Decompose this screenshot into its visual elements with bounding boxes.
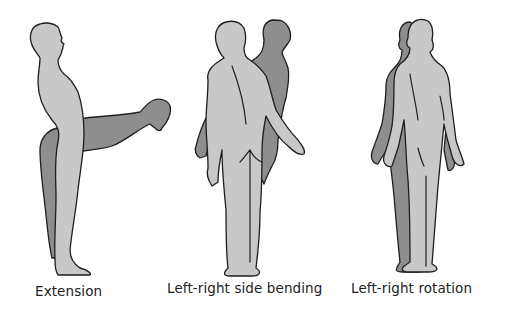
panel-side-bending: [195, 20, 304, 276]
caption-rotation: Left-right rotation: [351, 280, 472, 296]
caption-side-bending: Left-right side bending: [167, 280, 322, 296]
panel-rotation: [371, 19, 464, 272]
caption-extension: Extension: [35, 283, 102, 299]
diagram-canvas: [0, 0, 506, 322]
panel-extension: [30, 23, 170, 275]
figure-rotation: [384, 19, 464, 272]
